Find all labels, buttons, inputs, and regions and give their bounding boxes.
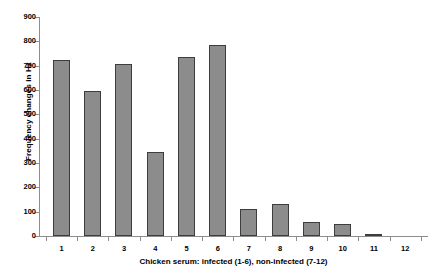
x-tick-mark	[202, 237, 203, 241]
bar-1	[53, 60, 70, 236]
y-tick-label: 700	[23, 61, 36, 70]
x-tick-mark	[140, 237, 141, 241]
x-tick-mark	[265, 237, 266, 241]
bar-8	[272, 204, 289, 236]
y-axis-line	[39, 17, 40, 237]
x-tick-label-2: 2	[78, 244, 108, 253]
x-tick-mark	[358, 237, 359, 241]
y-tick-label: 900	[23, 12, 36, 21]
bar-10	[334, 224, 351, 236]
x-tick-mark	[46, 237, 47, 241]
bar-5	[178, 57, 195, 236]
x-tick-label-8: 8	[265, 244, 295, 253]
bar-4	[147, 152, 164, 236]
bar-chart: Frequency changes in Hz 0100200300400500…	[0, 0, 438, 276]
x-tick-mark	[233, 237, 234, 241]
y-tick-label: 0	[32, 231, 36, 240]
x-tick-label-5: 5	[171, 244, 201, 253]
x-tick-mark	[108, 237, 109, 241]
x-tick-label-9: 9	[296, 244, 326, 253]
y-tick-label: 800	[23, 36, 36, 45]
x-tick-mark	[327, 237, 328, 241]
x-axis-title: Chicken serum: infected (1-6), non-infec…	[39, 257, 428, 266]
x-tick-label-6: 6	[203, 244, 233, 253]
x-tick-label-3: 3	[109, 244, 139, 253]
x-tick-mark	[421, 237, 422, 241]
y-tick-label: 200	[23, 182, 36, 191]
plot-area: 0100200300400500600700800900 12345678910…	[39, 17, 428, 236]
y-tick-label: 300	[23, 158, 36, 167]
bar-7	[240, 209, 257, 236]
x-tick-label-1: 1	[46, 244, 76, 253]
bar-9	[303, 222, 320, 236]
x-tick-label-7: 7	[234, 244, 264, 253]
bar-2	[84, 91, 101, 236]
x-tick-label-11: 11	[359, 244, 389, 253]
y-tick-label: 400	[23, 134, 36, 143]
x-tick-label-10: 10	[328, 244, 358, 253]
x-tick-mark	[296, 237, 297, 241]
x-tick-label-12: 12	[390, 244, 420, 253]
y-tick-label: 600	[23, 85, 36, 94]
bar-11	[365, 234, 382, 236]
x-tick-mark	[77, 237, 78, 241]
bar-6	[209, 45, 226, 236]
bar-3	[115, 64, 132, 236]
x-tick-label-4: 4	[140, 244, 170, 253]
y-tick-label: 100	[23, 207, 36, 216]
y-tick-label: 500	[23, 109, 36, 118]
x-tick-mark	[171, 237, 172, 241]
x-tick-mark	[390, 237, 391, 241]
